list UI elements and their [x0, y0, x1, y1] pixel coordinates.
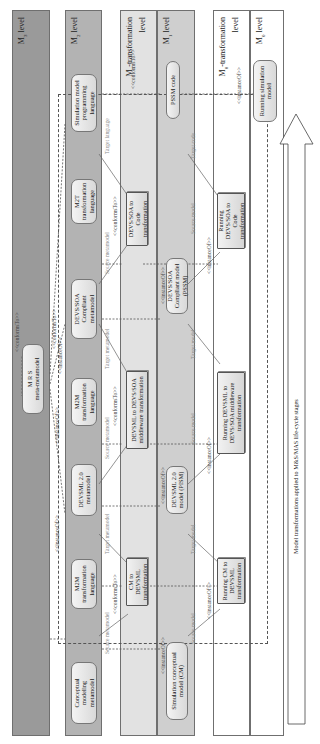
lifecycle-arrow [0, 0, 320, 744]
mda-diagram: M3 level M2 level M1-transformationlevel… [0, 0, 320, 744]
lifecycle-arrow-label: Model transformations applied to M&S/MAS… [293, 399, 300, 554]
